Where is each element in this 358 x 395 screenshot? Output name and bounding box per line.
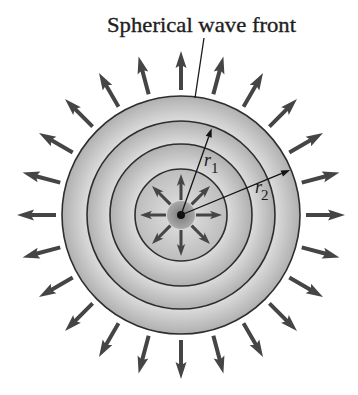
label-r1-subscript: 1 <box>211 160 219 176</box>
spherical-wave-diagram: Spherical wave front r1 r2 <box>0 0 358 395</box>
diagram-title: Spherical wave front <box>107 13 296 37</box>
label-r2-subscript: 2 <box>261 187 269 203</box>
